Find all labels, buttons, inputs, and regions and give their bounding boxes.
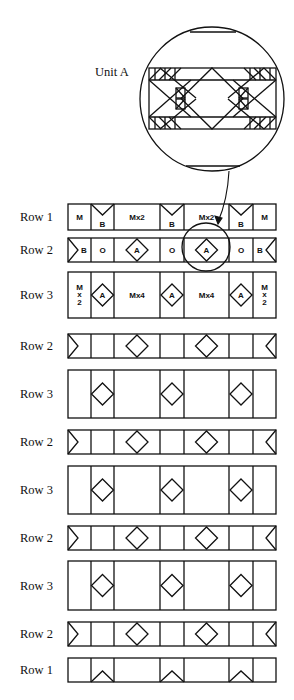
cell-label: M bbox=[261, 213, 268, 222]
cell-label: M bbox=[76, 213, 83, 222]
quilt-diagram: MBMx2BMx2BMBOOOAABMx2Mx2AAAMx4Mx4 bbox=[0, 0, 294, 700]
quilt-row bbox=[68, 466, 276, 514]
connector-arrow bbox=[215, 171, 229, 224]
cell-label: B bbox=[169, 220, 175, 229]
quilt-rows: MBMx2BMx2BMBOOOAABMx2Mx2AAAMx4Mx4 bbox=[68, 204, 276, 682]
cell-label: B bbox=[257, 246, 263, 255]
quilt-row bbox=[68, 561, 276, 610]
cell-label: 2 bbox=[262, 298, 267, 307]
quilt-row bbox=[68, 430, 276, 454]
cell-label: Mx4 bbox=[129, 291, 145, 300]
cell-label: O bbox=[238, 246, 244, 255]
cell-label: O bbox=[169, 246, 175, 255]
quilt-row bbox=[68, 658, 276, 682]
cell-label: B bbox=[238, 220, 244, 229]
cell-label: B bbox=[100, 220, 106, 229]
unit-a-magnifier bbox=[140, 27, 284, 171]
cell-label: Mx4 bbox=[199, 291, 215, 300]
quilt-row: Mx2Mx2AAAMx4Mx4 bbox=[68, 272, 276, 318]
quilt-row bbox=[68, 526, 276, 550]
cell-label: A bbox=[238, 291, 244, 300]
quilt-row: BOOOAAB bbox=[68, 238, 276, 262]
cell-label: Mx2 bbox=[199, 213, 215, 222]
cell-label: A bbox=[134, 246, 140, 255]
quilt-row bbox=[68, 334, 276, 358]
cell-label: Mx2 bbox=[129, 213, 145, 222]
cell-label: B bbox=[81, 246, 87, 255]
quilt-row: MBMx2BMx2BM bbox=[68, 204, 276, 230]
cell-label: A bbox=[204, 246, 210, 255]
cell-label: A bbox=[100, 291, 106, 300]
quilt-row bbox=[68, 622, 276, 646]
quilt-row bbox=[68, 370, 276, 418]
cell-label: A bbox=[169, 291, 175, 300]
cell-label: O bbox=[99, 246, 105, 255]
cell-label: 2 bbox=[77, 298, 82, 307]
